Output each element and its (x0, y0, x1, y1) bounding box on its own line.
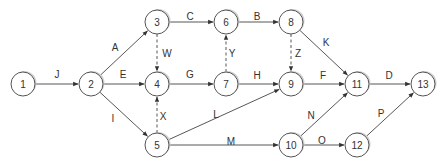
edge-label: M (227, 136, 235, 147)
edge-label: E (120, 69, 127, 80)
network-diagram: JAEICWGXBYHZKLMFDNOP 12345678910111213 (0, 0, 447, 168)
node-8: 8 (279, 9, 305, 34)
edge-label: O (318, 135, 326, 146)
node-10: 10 (279, 132, 305, 157)
node-label: 2 (88, 79, 94, 90)
edge-label: D (385, 70, 392, 81)
edge-l (168, 89, 279, 140)
edge-label: Y (229, 48, 236, 59)
edge-label: K (323, 37, 330, 48)
node-3: 3 (145, 9, 171, 34)
edge-label: A (112, 42, 119, 53)
edge-label: H (253, 70, 260, 81)
node-7: 7 (214, 71, 240, 96)
node-1: 1 (11, 71, 37, 96)
node-label: 9 (288, 79, 294, 90)
edge-label: J (55, 69, 60, 80)
node-label: 8 (288, 17, 294, 28)
node-4: 4 (145, 71, 171, 96)
node-13: 13 (411, 71, 437, 96)
node-label: 11 (352, 79, 363, 90)
node-2: 2 (79, 71, 105, 96)
edge-label: X (160, 111, 167, 122)
node-label: 12 (351, 140, 363, 151)
node-label: 3 (154, 17, 160, 28)
edge-label: N (307, 110, 314, 121)
node-label: 7 (223, 79, 229, 90)
node-label: 5 (154, 140, 160, 151)
node-label: 13 (417, 79, 429, 90)
edge-p (366, 93, 414, 137)
edge-label: P (378, 108, 385, 119)
edge-i (100, 92, 148, 136)
edge-label: W (162, 48, 172, 59)
node-5: 5 (145, 132, 171, 157)
nodes-layer: 12345678910111213 (11, 9, 437, 157)
edge-label: B (254, 11, 261, 22)
edge-label: I (112, 113, 115, 124)
edge-label: L (213, 109, 219, 120)
edge-label: C (186, 11, 193, 22)
node-label: 1 (20, 79, 26, 90)
node-9: 9 (279, 71, 305, 96)
edge-label: Z (295, 48, 301, 59)
node-6: 6 (214, 9, 240, 34)
node-12: 12 (345, 132, 371, 157)
edge-label: F (320, 70, 326, 81)
node-label: 4 (154, 79, 160, 90)
edge-label: G (186, 69, 194, 80)
node-11: 11 (345, 71, 371, 96)
node-label: 6 (223, 17, 229, 28)
node-label: 10 (285, 140, 297, 151)
